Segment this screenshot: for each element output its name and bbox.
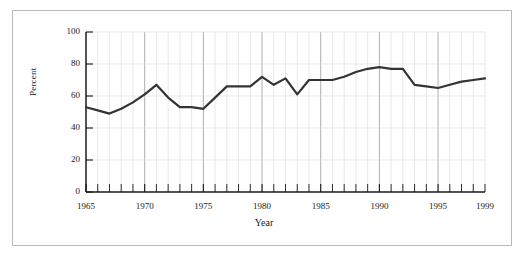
y-tick-label: 0: [54, 186, 80, 196]
y-tick-label: 20: [54, 154, 80, 164]
y-axis-title: Percent: [28, 82, 38, 96]
y-tick-label: 100: [54, 26, 80, 36]
y-axis-ticks: [86, 32, 93, 192]
y-tick-label: 40: [54, 122, 80, 132]
x-tick-label: 1970: [125, 201, 165, 211]
y-tick-label: 80: [54, 58, 80, 68]
x-tick-label: 1965: [66, 201, 106, 211]
x-axis-ticks: [86, 184, 485, 192]
x-tick-label: 1975: [183, 201, 223, 211]
x-tick-label: 1995: [418, 201, 458, 211]
y-tick-label: 60: [54, 90, 80, 100]
x-axis-title: Year: [0, 217, 528, 228]
gridlines-vertical: [86, 32, 485, 192]
x-tick-label: 1980: [242, 201, 282, 211]
x-tick-label: 1985: [301, 201, 341, 211]
x-tick-label: 1990: [359, 201, 399, 211]
x-tick-label: 1999: [465, 201, 505, 211]
